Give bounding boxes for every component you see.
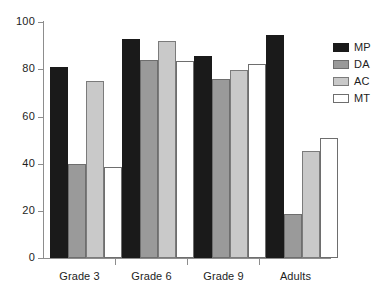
legend-swatch-ac-icon (333, 77, 349, 86)
x-axis-category-adults: Adults (260, 270, 331, 282)
legend-swatch-mp-icon (333, 43, 349, 52)
legend-item-ac: AC (333, 74, 383, 89)
bar-grade-6-mp (122, 39, 140, 258)
y-axis-label-80: 80 (0, 63, 35, 74)
legend-item-da: DA (333, 57, 383, 72)
bar-adults-ac (302, 151, 320, 258)
legend-label-mp: MP (354, 42, 371, 53)
x-axis-category-grade-9: Grade 9 (188, 270, 259, 282)
y-axis-label-40: 40 (0, 158, 35, 169)
legend-item-mp: MP (333, 40, 383, 55)
bar-adults-mp (266, 35, 284, 258)
y-axis-label-100: 100 (0, 16, 35, 27)
bar-adults-da (284, 214, 302, 258)
legend-label-da: DA (354, 59, 370, 70)
x-axis-category-grade-6: Grade 6 (116, 270, 187, 282)
legend-swatch-mt-icon (333, 94, 349, 103)
bar-grade-6-da (140, 60, 158, 258)
bar-grade-9-mt (248, 64, 266, 258)
bar-grade-3-mp (50, 67, 68, 258)
bar-grade-9-mp (194, 56, 212, 258)
x-axis-tick-2 (187, 259, 188, 265)
bar-grade-3-da (68, 164, 86, 258)
bar-grade-3-mt (104, 167, 122, 258)
legend-swatch-da-icon (333, 60, 349, 69)
y-axis-label-60: 60 (0, 111, 35, 122)
y-axis-label-0: 0 (0, 252, 35, 263)
x-axis-tick-1 (115, 259, 116, 265)
legend-item-mt: MT (333, 91, 383, 106)
legend: MP DA AC MT (333, 40, 383, 108)
legend-label-mt: MT (354, 93, 370, 104)
bar-grade-3-ac (86, 81, 104, 258)
x-axis-tick-3 (259, 259, 260, 265)
y-axis-tick-0 (38, 258, 44, 259)
bar-chart: 100 80 60 40 20 0 Grade 3 Grade 6 Grade … (0, 0, 384, 293)
bar-adults-mt (320, 138, 338, 258)
plot-area (44, 22, 330, 258)
y-axis-label-20: 20 (0, 205, 35, 216)
legend-label-ac: AC (354, 76, 370, 87)
bar-grade-9-ac (230, 70, 248, 258)
bar-grade-6-ac (158, 41, 176, 258)
bar-grade-9-da (212, 79, 230, 258)
x-axis-category-grade-3: Grade 3 (44, 270, 115, 282)
bar-grade-6-mt (176, 61, 194, 258)
